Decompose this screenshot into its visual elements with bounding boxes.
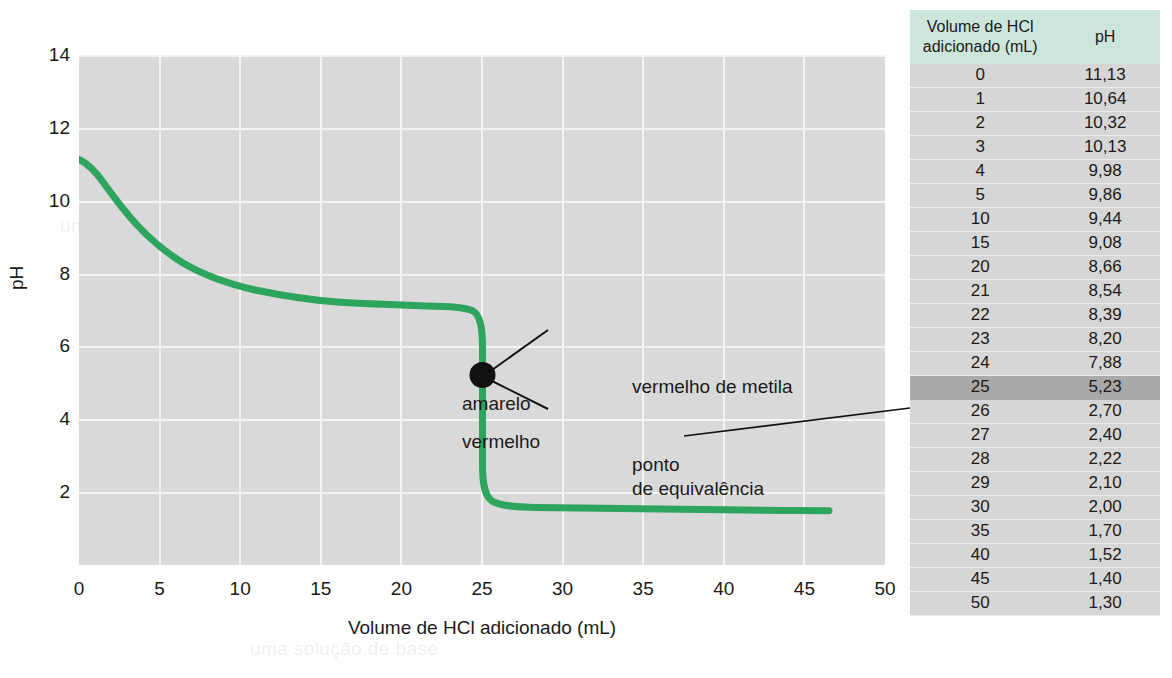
y-axis-title: pH xyxy=(6,266,28,290)
table-row: 159,08 xyxy=(910,232,1160,256)
column-header-ph: pH xyxy=(1050,10,1160,64)
x-tick: 5 xyxy=(130,578,190,600)
x-tick: 40 xyxy=(694,578,754,600)
table-row: 451,40 xyxy=(910,568,1160,592)
table-row: 351,70 xyxy=(910,520,1160,544)
cell-ph: 8,20 xyxy=(1050,328,1160,352)
cell-volume: 20 xyxy=(910,256,1050,280)
table-row: 59,86 xyxy=(910,184,1160,208)
table-row: 208,66 xyxy=(910,256,1160,280)
y-tick: 10 xyxy=(8,190,70,212)
cell-volume: 50 xyxy=(910,592,1050,616)
cell-ph: 5,23 xyxy=(1050,376,1160,400)
cell-volume: 5 xyxy=(910,184,1050,208)
x-tick: 15 xyxy=(291,578,351,600)
cell-ph: 2,22 xyxy=(1050,448,1160,472)
cell-volume: 0 xyxy=(910,64,1050,88)
table-row: 292,10 xyxy=(910,472,1160,496)
cell-volume: 26 xyxy=(910,400,1050,424)
x-tick: 30 xyxy=(533,578,593,600)
x-tick: 35 xyxy=(613,578,673,600)
table-row: 302,00 xyxy=(910,496,1160,520)
y-tick: 4 xyxy=(8,408,70,430)
x-axis-tick-labels: 0 5 10 15 20 25 30 35 40 45 50 xyxy=(79,578,885,604)
table-row: 310,13 xyxy=(910,136,1160,160)
y-tick: 14 xyxy=(8,44,70,66)
cell-ph: 1,30 xyxy=(1050,592,1160,616)
cell-ph: 10,13 xyxy=(1050,136,1160,160)
annotation-vermelho-de-metila: vermelho de metila xyxy=(632,375,793,399)
table-row: 210,32 xyxy=(910,112,1160,136)
cell-volume: 10 xyxy=(910,208,1050,232)
x-tick: 20 xyxy=(371,578,431,600)
cell-ph: 2,40 xyxy=(1050,424,1160,448)
cell-volume: 29 xyxy=(910,472,1050,496)
x-tick: 45 xyxy=(774,578,834,600)
table-header: Volume de HCl adicionado (mL) pH xyxy=(910,10,1160,64)
scan-bleedthrough-text: uma solução de base xyxy=(250,638,438,660)
x-tick: 50 xyxy=(855,578,915,600)
y-tick: 6 xyxy=(8,335,70,357)
column-header-volume-line2: adicionado (mL) xyxy=(914,37,1046,57)
cell-ph: 1,40 xyxy=(1050,568,1160,592)
y-tick: 2 xyxy=(8,481,70,503)
cell-volume: 25 xyxy=(910,376,1050,400)
table-row: 282,22 xyxy=(910,448,1160,472)
cell-ph: 8,66 xyxy=(1050,256,1160,280)
cell-ph: 1,52 xyxy=(1050,544,1160,568)
cell-volume: 3 xyxy=(910,136,1050,160)
annotation-vermelho: vermelho xyxy=(462,430,540,454)
cell-ph: 2,00 xyxy=(1050,496,1160,520)
cell-volume: 23 xyxy=(910,328,1050,352)
cell-volume: 40 xyxy=(910,544,1050,568)
cell-ph: 2,70 xyxy=(1050,400,1160,424)
table-row: 262,70 xyxy=(910,400,1160,424)
annotation-ponto-line2: de equivalência xyxy=(632,477,764,501)
column-header-volume-line1: Volume de HCl xyxy=(914,17,1046,37)
annotation-amarelo: amarelo xyxy=(462,392,531,416)
cell-ph: 2,10 xyxy=(1050,472,1160,496)
cell-volume: 22 xyxy=(910,304,1050,328)
x-tick: 10 xyxy=(210,578,270,600)
table-row: 109,44 xyxy=(910,208,1160,232)
cell-ph: 10,64 xyxy=(1050,88,1160,112)
cell-volume: 35 xyxy=(910,520,1050,544)
cell-volume: 21 xyxy=(910,280,1050,304)
cell-volume: 28 xyxy=(910,448,1050,472)
y-tick: 12 xyxy=(8,117,70,139)
table-row: 238,20 xyxy=(910,328,1160,352)
cell-volume: 2 xyxy=(910,112,1050,136)
cell-volume: 30 xyxy=(910,496,1050,520)
x-tick: 25 xyxy=(452,578,512,600)
plot-area: amarelo vermelho vermelho de metila pont… xyxy=(79,55,885,565)
table-row: 255,23 xyxy=(910,376,1160,400)
x-tick: 0 xyxy=(49,578,109,600)
cell-ph: 8,54 xyxy=(1050,280,1160,304)
equivalence-point-marker xyxy=(79,55,885,565)
cell-volume: 45 xyxy=(910,568,1050,592)
table-row: 401,52 xyxy=(910,544,1160,568)
cell-volume: 27 xyxy=(910,424,1050,448)
cell-ph: 9,98 xyxy=(1050,160,1160,184)
table-row: 272,40 xyxy=(910,424,1160,448)
cell-ph: 9,44 xyxy=(1050,208,1160,232)
cell-volume: 24 xyxy=(910,352,1050,376)
table-row: 228,39 xyxy=(910,304,1160,328)
column-header-volume: Volume de HCl adicionado (mL) xyxy=(910,10,1050,64)
cell-ph: 11,13 xyxy=(1050,64,1160,88)
table-row: 501,30 xyxy=(910,592,1160,616)
cell-ph: 7,88 xyxy=(1050,352,1160,376)
cell-volume: 15 xyxy=(910,232,1050,256)
cell-ph: 8,39 xyxy=(1050,304,1160,328)
cell-ph: 10,32 xyxy=(1050,112,1160,136)
table-row: 49,98 xyxy=(910,160,1160,184)
table-row: 011,13 xyxy=(910,64,1160,88)
annotation-ponto-line1: ponto xyxy=(632,453,764,477)
cell-volume: 1 xyxy=(910,88,1050,112)
table-row: 218,54 xyxy=(910,280,1160,304)
table-row: 247,88 xyxy=(910,352,1160,376)
titration-figure: ser de uma uma o equ em a tamanho idas e… xyxy=(0,0,1172,678)
cell-ph: 9,86 xyxy=(1050,184,1160,208)
cell-ph: 9,08 xyxy=(1050,232,1160,256)
ph-data-table: Volume de HCl adicionado (mL) pH 011,131… xyxy=(910,10,1160,616)
